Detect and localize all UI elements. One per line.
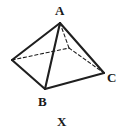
vertex-label-b: B	[38, 95, 47, 108]
edge-front-to-right	[45, 73, 104, 89]
vertex-label-c: C	[107, 71, 116, 84]
edge-left-to-front	[12, 60, 45, 89]
vertex-label-a: A	[55, 4, 64, 17]
pyramid-figure: A B C X	[0, 0, 121, 134]
figure-caption-x: X	[57, 115, 66, 128]
solid-edges-group	[12, 23, 104, 89]
edge-apex-to-right	[60, 23, 104, 73]
